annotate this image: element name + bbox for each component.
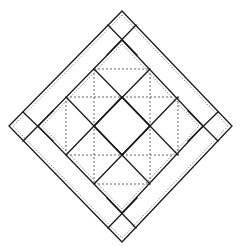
- quilt-block-diagram: [0, 0, 241, 246]
- corner-squares: [23, 25, 218, 228]
- border-seam-lines: [13, 15, 228, 238]
